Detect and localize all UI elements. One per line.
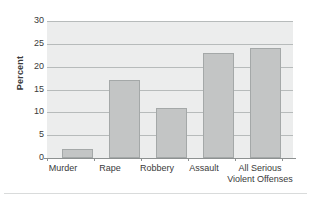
plot-area bbox=[47, 21, 293, 158]
gridline-25 bbox=[47, 44, 293, 45]
y-tick-label-5: 5 bbox=[22, 130, 44, 139]
x-label-robbery-line1: Robbery bbox=[140, 163, 174, 173]
x-axis-line bbox=[44, 158, 296, 159]
gridline-30 bbox=[47, 21, 293, 22]
x-tick-0 bbox=[47, 158, 48, 161]
x-tick-2 bbox=[141, 158, 142, 161]
x-tick-3 bbox=[188, 158, 189, 161]
bar-all-serious-violent-offenses bbox=[250, 48, 281, 158]
y-tick-label-30: 30 bbox=[22, 16, 44, 25]
x-label-assault-line1: Assault bbox=[189, 163, 219, 173]
bar-murder bbox=[62, 149, 93, 158]
x-label-murder: Murder bbox=[38, 163, 88, 174]
y-tick-label-25: 25 bbox=[22, 39, 44, 48]
bottom-divider bbox=[4, 193, 307, 194]
bar-rape bbox=[109, 80, 140, 158]
x-label-rape-line1: Rape bbox=[99, 163, 121, 173]
x-tick-4 bbox=[235, 158, 236, 161]
bar-assault bbox=[203, 53, 234, 158]
x-tick-1 bbox=[94, 158, 95, 161]
x-label-rape: Rape bbox=[85, 163, 135, 174]
bar-chart-figure: Percent 30 25 20 15 10 5 0 Murder Rape bbox=[0, 0, 311, 201]
y-tick-label-15: 15 bbox=[22, 85, 44, 94]
x-tick-5 bbox=[282, 158, 283, 161]
x-label-murder-line1: Murder bbox=[49, 163, 78, 173]
y-tick-label-20: 20 bbox=[22, 62, 44, 71]
y-axis-tick-labels: 30 25 20 15 10 5 0 bbox=[22, 16, 44, 159]
y-tick-label-10: 10 bbox=[22, 107, 44, 116]
x-label-all-serious-line2: Violent Offenses bbox=[220, 174, 300, 185]
y-tick-label-0: 0 bbox=[22, 153, 44, 162]
x-label-all-serious-line1: All Serious bbox=[238, 163, 281, 173]
x-label-all-serious-violent-offenses: All Serious Violent Offenses bbox=[220, 163, 300, 185]
bar-robbery bbox=[156, 108, 187, 158]
x-label-robbery: Robbery bbox=[132, 163, 182, 174]
